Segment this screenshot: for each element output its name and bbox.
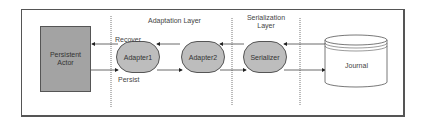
journal-label: Journal <box>345 62 368 70</box>
journal-cylinder <box>325 35 387 87</box>
adapter2-node: Adapter2 <box>181 41 225 73</box>
serializer-node: Serializer <box>243 41 287 73</box>
recover-label: Recover <box>115 36 141 44</box>
adaptation-layer-label: Adaptation Layer <box>148 17 201 25</box>
serialization-layer-label: Serialization Layer <box>244 14 288 30</box>
adapter1-node: Adapter1 <box>116 41 160 73</box>
persistent-actor-node: Persistent Actor <box>40 26 91 92</box>
persist-label: Persist <box>118 76 139 84</box>
